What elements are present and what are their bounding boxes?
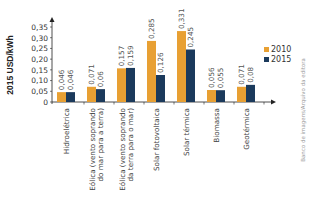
bar-2010 [147,41,156,102]
bar-2010 [237,87,246,102]
y-tick-label: 0,10 [31,76,48,85]
category-label: Solar fotovoltaica [152,108,161,171]
bar-value-label: 0,06 [96,71,105,87]
category-label: Geotérmica [242,108,251,150]
image-credit: Banco de imagens/Arquivo da editora [300,58,306,162]
bar-2015 [156,75,165,102]
y-tick-label: 0,30 [31,34,48,43]
bar-2015 [216,90,225,102]
legend: 20102015 [264,45,291,64]
bar-value-label: 0,157 [117,46,126,67]
bar-value-label: 0,071 [237,64,246,85]
x-axis-labels: HidroelétricaEólica (vento soprandodo ma… [62,108,251,191]
y-tick-label: 0,20 [31,55,48,64]
y-tick-label: 0 [43,98,48,107]
y-tick-label: 0,35 [31,23,48,32]
bars: 0,0460,0460,0710,060,1570,1590,2850,1260… [57,8,255,102]
bar-value-label: 0,159 [126,45,135,66]
bar-value-label: 0,071 [87,64,96,85]
bar-2015 [96,89,105,102]
bar-2015 [186,50,195,103]
bar-value-label: 0,046 [66,69,75,90]
y-axis-label: 2015 USD/kWh [5,35,15,95]
bar-2015 [66,92,75,102]
legend-label: 2010 [271,45,291,54]
bar-value-label: 0,046 [57,69,66,90]
bar-value-label: 0,08 [246,66,255,82]
legend-label: 2015 [271,55,291,64]
bar-2010 [117,68,126,102]
bar-2010 [57,92,66,102]
bar-2010 [87,87,96,102]
legend-swatch-2015 [264,57,269,62]
y-axis-arrow-icon [50,17,55,22]
bar-value-label: 0,055 [216,68,225,89]
bar-value-label: 0,331 [177,8,186,29]
y-tick-label: 0,05 [31,87,48,96]
bar-chart: 00,050,100,150,200,250,300,35 2015 USD/k… [0,0,313,218]
legend-swatch-2010 [264,47,269,52]
bar-2010 [207,90,216,102]
bar-2010 [177,31,186,102]
y-tick-label: 0,25 [31,44,48,53]
bar-value-label: 0,126 [156,52,165,73]
category-label: Biomassa [212,108,221,143]
category-label: Hidroelétrica [62,108,71,154]
bar-value-label: 0,245 [186,27,195,48]
bar-2015 [246,85,255,102]
category-label: Solar térmica [182,108,191,156]
bar-value-label: 0,285 [147,18,156,39]
category-label: da terra para o mar) [126,108,135,182]
y-tick-label: 0,15 [31,66,48,75]
bar-2015 [126,68,135,102]
category-label: do mar para a terra) [96,108,105,182]
x-axis-arrow-icon [271,100,276,105]
bar-value-label: 0,056 [207,67,216,88]
